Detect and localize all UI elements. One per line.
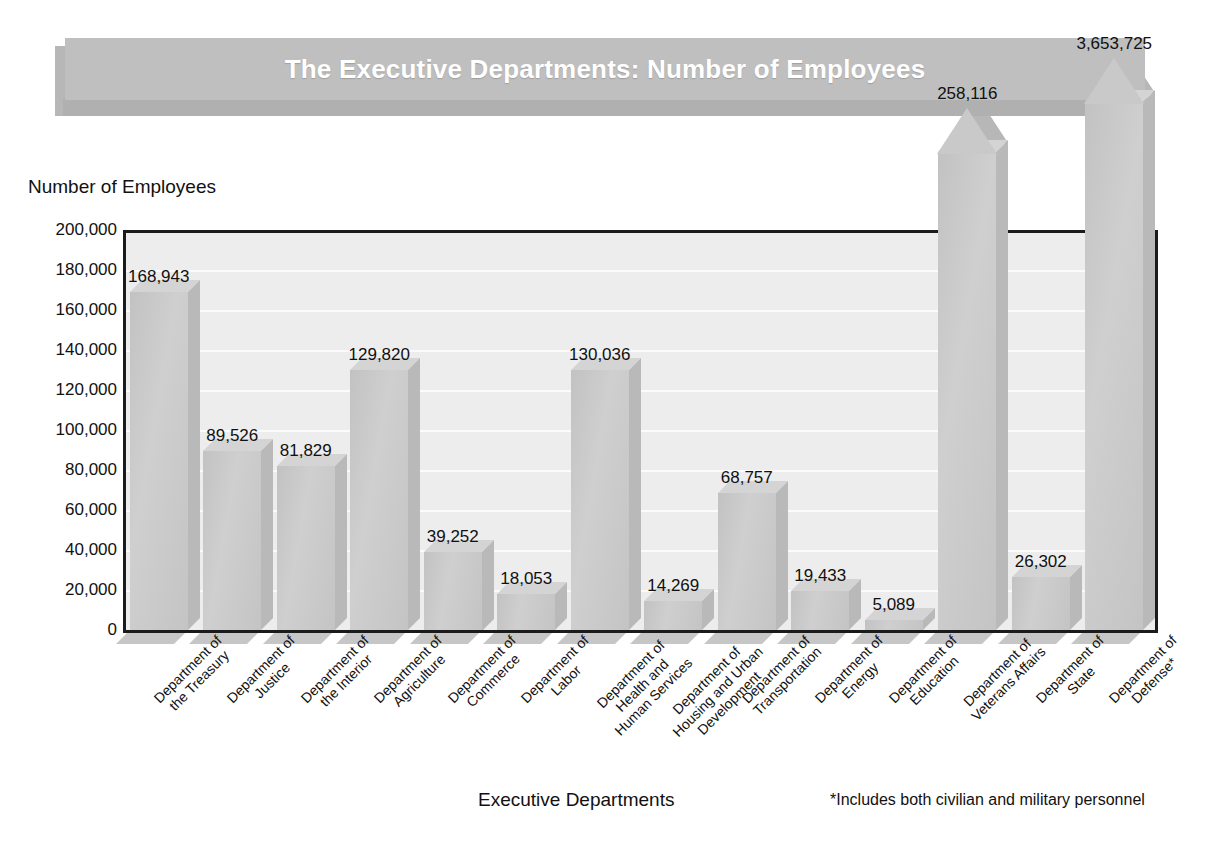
bar-value-label: 18,053 xyxy=(500,569,552,589)
bar-side-face xyxy=(482,540,494,631)
x-tick-label: Department ofthe Interior xyxy=(297,632,382,717)
x-axis-tick-labels: Department ofthe TreasuryDepartment ofJu… xyxy=(126,632,1155,782)
bar-front-face xyxy=(1012,577,1070,630)
y-tick-label: 80,000 xyxy=(65,460,117,480)
bar[interactable]: 19,433 xyxy=(791,591,849,630)
bar-front-face xyxy=(865,620,923,630)
bar[interactable]: 3,653,725 xyxy=(1085,102,1143,630)
y-tick-label: 20,000 xyxy=(65,580,117,600)
y-tick-label: 100,000 xyxy=(56,420,117,440)
bar-side-face xyxy=(188,280,200,630)
bar-side-face xyxy=(335,454,347,630)
bar-side-face xyxy=(776,481,788,631)
bar-value-label: 3,653,725 xyxy=(1076,34,1152,54)
bar-front-face xyxy=(791,591,849,630)
x-tick-label: Department ofState xyxy=(1032,632,1117,717)
bar-front-face xyxy=(497,594,555,630)
x-tick-label: Department ofAgriculture xyxy=(371,632,456,717)
bar-value-label: 5,089 xyxy=(872,595,915,615)
plot-right-border xyxy=(1155,230,1158,633)
bar-front-face xyxy=(130,292,188,630)
bar-front-face xyxy=(1085,102,1143,630)
bar-front-face xyxy=(938,152,996,630)
bar[interactable]: 14,269 xyxy=(644,601,702,630)
bar-side-face xyxy=(629,358,641,630)
bar-side-face xyxy=(408,358,420,630)
bar[interactable]: 130,036 xyxy=(571,370,629,630)
bar[interactable]: 5,089 xyxy=(865,620,923,630)
y-tick-label: 60,000 xyxy=(65,500,117,520)
bar-front-face xyxy=(718,493,776,631)
bar-front-face xyxy=(571,370,629,630)
bar[interactable]: 39,252 xyxy=(424,552,482,631)
chart-plot-area: 168,94389,52681,829129,82039,25218,05313… xyxy=(126,230,1155,630)
y-tick-label: 160,000 xyxy=(56,300,117,320)
y-axis-line xyxy=(123,230,126,633)
bar-value-label: 81,829 xyxy=(280,441,332,461)
bar-value-label: 68,757 xyxy=(721,468,773,488)
bar[interactable]: 26,302 xyxy=(1012,577,1070,630)
bar-value-label: 39,252 xyxy=(427,527,479,547)
bar-side-face xyxy=(261,439,273,630)
bar-front-face xyxy=(424,552,482,631)
y-tick-label: 180,000 xyxy=(56,260,117,280)
bar-arrow-head xyxy=(1084,58,1144,104)
bar[interactable]: 258,116 xyxy=(938,152,996,630)
bar-value-label: 168,943 xyxy=(128,267,189,287)
bar-value-label: 130,036 xyxy=(569,345,630,365)
y-tick-label: 120,000 xyxy=(56,380,117,400)
bar[interactable]: 68,757 xyxy=(718,493,776,631)
chart-footnote: *Includes both civilian and military per… xyxy=(830,791,1145,809)
bar-side-face xyxy=(1143,90,1155,630)
y-tick-label: 0 xyxy=(108,620,117,640)
bar[interactable]: 129,820 xyxy=(350,370,408,630)
x-tick-label: Department ofEnergy xyxy=(812,632,897,717)
bar-value-label: 19,433 xyxy=(794,566,846,586)
y-tick-label: 200,000 xyxy=(56,220,117,240)
y-tick-label: 40,000 xyxy=(65,540,117,560)
x-axis-title: Executive Departments xyxy=(478,789,674,811)
bar-value-label: 89,526 xyxy=(206,426,258,446)
y-tick-label: 140,000 xyxy=(56,340,117,360)
bar-front-face xyxy=(350,370,408,630)
chart-title: The Executive Departments: Number of Emp… xyxy=(285,54,926,85)
bar-side-face xyxy=(996,140,1008,630)
x-tick-label: Department ofCommerce xyxy=(444,632,529,717)
x-tick-label: Department ofJustice xyxy=(224,632,309,717)
bar-value-label: 258,116 xyxy=(937,84,997,104)
bar[interactable]: 18,053 xyxy=(497,594,555,630)
bar[interactable]: 81,829 xyxy=(277,466,335,630)
x-tick-label: Department ofEducation xyxy=(885,632,970,717)
bar-front-face xyxy=(644,601,702,630)
bar[interactable]: 89,526 xyxy=(203,451,261,630)
bar-value-label: 26,302 xyxy=(1015,552,1067,572)
bar-front-face xyxy=(203,451,261,630)
bar[interactable]: 168,943 xyxy=(130,292,188,630)
bar-arrow-head xyxy=(937,108,997,154)
x-tick-label: Department ofVeterans Affairs xyxy=(957,632,1049,724)
y-axis-title: Number of Employees xyxy=(28,176,216,198)
bar-value-label: 129,820 xyxy=(349,345,410,365)
bar-value-label: 14,269 xyxy=(647,576,699,596)
x-tick-label: Department ofDefense* xyxy=(1106,632,1191,717)
x-tick-label: Department ofthe Treasury xyxy=(150,632,235,717)
bar-front-face xyxy=(277,466,335,630)
